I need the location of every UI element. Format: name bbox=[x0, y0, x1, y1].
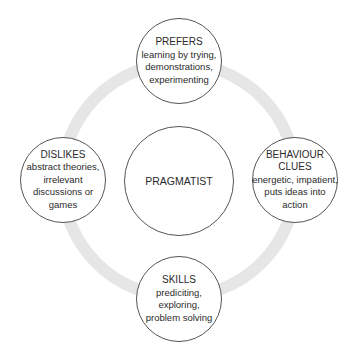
node-text: action bbox=[282, 199, 307, 212]
node-text: energetic, impatient, bbox=[252, 174, 338, 187]
center-title: PRAGMATIST bbox=[145, 175, 212, 188]
node-text: learning by trying, bbox=[142, 49, 217, 62]
node-title: SKILLS bbox=[162, 274, 196, 287]
node-text: prediciting, bbox=[156, 287, 202, 300]
node-text: abstract theories, bbox=[27, 161, 100, 174]
node-title: BEHAVIOUR bbox=[266, 149, 324, 162]
node-text: demonstrations, bbox=[145, 61, 213, 74]
node-text: discussions or bbox=[33, 186, 93, 199]
node-text: puts ideas into bbox=[264, 186, 325, 199]
node-dislikes: DISLIKES abstract theories, irrelevant d… bbox=[20, 137, 106, 223]
node-title: CLUES bbox=[278, 161, 311, 174]
node-title: PREFERS bbox=[155, 36, 202, 49]
node-skills: SKILLS prediciting, exploring, problem s… bbox=[136, 256, 222, 342]
center-node-pragmatist: PRAGMATIST bbox=[124, 126, 234, 236]
node-behaviour-clues: BEHAVIOUR CLUES energetic, impatient, pu… bbox=[252, 137, 338, 223]
node-text: games bbox=[49, 199, 78, 212]
node-text: experimenting bbox=[149, 74, 209, 87]
node-text: irrelevant bbox=[43, 174, 82, 187]
node-title: DISLIKES bbox=[40, 149, 85, 162]
node-prefers: PREFERS learning by trying, demonstratio… bbox=[136, 18, 222, 104]
node-text: problem solving bbox=[146, 312, 213, 325]
node-text: exploring, bbox=[158, 299, 199, 312]
